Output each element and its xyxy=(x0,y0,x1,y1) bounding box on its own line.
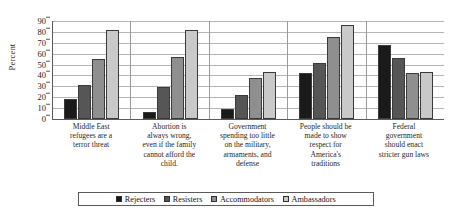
category-label-line: government xyxy=(366,131,442,140)
bar-ambassadors xyxy=(263,72,276,119)
y-axis-tick-mark xyxy=(46,60,50,61)
category-label-1: Middle Eastrefugees are aterror threat xyxy=(52,122,130,168)
bar-accommodators xyxy=(406,73,419,119)
category-label-line: People should be xyxy=(288,122,364,131)
category-label-line: on the military, xyxy=(209,140,285,149)
category-label-line: always wrong, xyxy=(131,131,207,140)
y-axis-tick-label: 60 xyxy=(38,49,47,58)
legend-label: Accommodators xyxy=(220,195,274,204)
plot-area xyxy=(52,21,444,120)
category-label-line: Federal xyxy=(366,122,442,131)
bar-resisters xyxy=(157,87,170,119)
bar-ambassadors xyxy=(106,30,119,119)
y-axis-tick-mark xyxy=(46,82,50,83)
y-axis-tick-label: 20 xyxy=(38,93,47,102)
bar-slot xyxy=(142,21,156,119)
category-label-line: stricter gun laws xyxy=(366,150,442,159)
y-axis-tick-label: 70 xyxy=(38,39,47,48)
legend-item-resisters[interactable]: Resisters xyxy=(164,195,202,204)
bar-slot xyxy=(78,21,92,119)
bar-slot xyxy=(221,21,235,119)
bar-accommodators xyxy=(249,78,262,119)
category-label-line: spending too little xyxy=(209,131,285,140)
bar-slot xyxy=(391,21,405,119)
bar-slot xyxy=(327,21,341,119)
category-label-line: cannot afford the xyxy=(131,150,207,159)
bar-resisters xyxy=(392,58,405,119)
y-axis-tick-mark xyxy=(46,28,50,29)
legend-swatch-icon xyxy=(283,196,289,202)
category-label-line: should enact xyxy=(366,140,442,149)
bar-rejecters xyxy=(64,99,77,119)
bar-slot xyxy=(263,21,277,119)
bar-rejecters xyxy=(221,109,234,119)
y-axis-tick-label: 40 xyxy=(38,71,47,80)
y-axis-tick-mark xyxy=(46,71,50,72)
category-label-line: defense xyxy=(209,159,285,168)
bar-slot xyxy=(377,21,391,119)
category-label-4: People should bemade to showrespect forA… xyxy=(287,122,365,168)
category-label-line: Middle East xyxy=(53,122,129,131)
y-axis-tick-mark xyxy=(46,93,50,94)
category-label-line: even if the family xyxy=(131,140,207,149)
y-axis-tick-label: 0 xyxy=(42,115,46,124)
category-label-line: refugees are a xyxy=(53,131,129,140)
category-label-line: child. xyxy=(131,159,207,168)
y-axis-tick-label: 30 xyxy=(38,82,47,91)
legend-item-ambassadors[interactable]: Ambassadors xyxy=(283,195,336,204)
y-axis-tick-mark xyxy=(46,104,50,105)
bar-slot xyxy=(92,21,106,119)
legend-label: Resisters xyxy=(173,195,203,204)
category-label-line: respect for xyxy=(288,140,364,149)
legend-item-accommodators[interactable]: Accommodators xyxy=(211,195,274,204)
category-label-line: Government xyxy=(209,122,285,131)
bar-slot xyxy=(341,21,355,119)
category-label-line: Abortion is xyxy=(131,122,207,131)
bar-slot xyxy=(184,21,198,119)
y-axis-tick-label: 50 xyxy=(38,60,47,69)
bar-slot xyxy=(156,21,170,119)
category-label-line: made to show xyxy=(288,131,364,140)
y-axis-title: Percent xyxy=(7,27,17,87)
legend-swatch-icon xyxy=(211,196,217,202)
bar-rejecters xyxy=(143,112,156,119)
y-axis-tick-label: 10 xyxy=(38,104,47,113)
category-label-3: Governmentspending too littleon the mili… xyxy=(208,122,286,168)
y-axis-tick-label: 90 xyxy=(38,17,47,26)
bar-slot xyxy=(249,21,263,119)
category-label-line: traditions xyxy=(288,159,364,168)
y-axis-tick-mark xyxy=(46,39,50,40)
chart-legend: RejectersResistersAccommodatorsAmbassado… xyxy=(78,192,374,206)
category-label-line: armaments, and xyxy=(209,150,285,159)
y-axis-tick-mark xyxy=(46,17,50,18)
bar-ambassadors xyxy=(341,25,354,119)
bar-group xyxy=(288,21,366,119)
y-axis-tick-labels: 0102030405060708090 xyxy=(22,21,50,119)
bar-group xyxy=(53,21,131,119)
bar-resisters xyxy=(235,95,248,119)
legend-item-rejecters[interactable]: Rejecters xyxy=(116,195,155,204)
y-axis-tick-label: 80 xyxy=(38,28,47,37)
legend-swatch-icon xyxy=(116,196,122,202)
bar-slot xyxy=(419,21,433,119)
bar-resisters xyxy=(313,63,326,119)
bar-slot xyxy=(106,21,120,119)
bar-slot xyxy=(313,21,327,119)
category-label-5: Federalgovernmentshould enactstricter gu… xyxy=(365,122,443,168)
bar-rejecters xyxy=(299,73,312,119)
bar-slot xyxy=(170,21,184,119)
bar-resisters xyxy=(78,85,91,119)
y-axis-tick-mark xyxy=(46,49,50,50)
legend-label: Rejecters xyxy=(125,195,155,204)
bar-accommodators xyxy=(327,37,340,119)
bar-group xyxy=(367,21,444,119)
bar-group xyxy=(210,21,288,119)
bar-accommodators xyxy=(92,59,105,119)
bar-chart-figure: Percent 0102030405060708090 Middle Eastr… xyxy=(0,0,451,220)
category-label-2: Abortion isalways wrong,even if the fami… xyxy=(130,122,208,168)
y-axis-tick-mark xyxy=(46,115,50,116)
category-label-line: terror threat xyxy=(53,140,129,149)
bar-rejecters xyxy=(378,45,391,119)
legend-swatch-icon xyxy=(164,196,170,202)
legend-label: Ambassadors xyxy=(292,195,336,204)
